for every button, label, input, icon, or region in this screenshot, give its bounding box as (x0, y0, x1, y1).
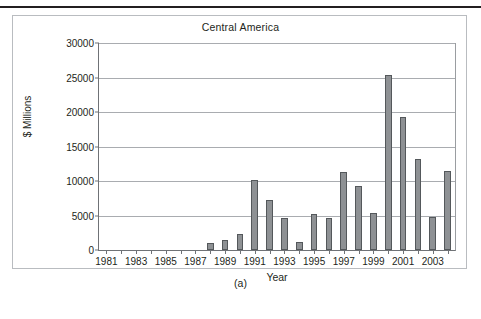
y-gridline (99, 43, 455, 44)
bar (340, 172, 347, 250)
x-tick-mark (255, 250, 256, 254)
y-tick-label: 0 (88, 245, 94, 256)
x-tick-mark (418, 250, 419, 254)
x-tick-mark (329, 250, 330, 254)
x-tick-label: 1993 (273, 256, 295, 267)
bar (385, 75, 392, 250)
x-tick-label: 1985 (155, 256, 177, 267)
figure-page: Central America $ Millions 0500010000150… (0, 0, 481, 319)
x-tick-mark (284, 250, 285, 254)
y-tick-mark (95, 215, 99, 216)
x-tick-mark (225, 250, 226, 254)
top-rule-divider (0, 6, 481, 8)
x-tick-mark (181, 250, 182, 254)
x-tick-mark (166, 250, 167, 254)
x-tick-label: 2003 (422, 256, 444, 267)
x-tick-label: 1989 (214, 256, 236, 267)
x-tick-mark (359, 250, 360, 254)
figure-frame: Central America $ Millions 0500010000150… (12, 15, 467, 269)
x-tick-mark (344, 250, 345, 254)
y-tick-mark (95, 43, 99, 44)
plot-area: 0500010000150002000025000300001981198319… (98, 43, 456, 251)
x-tick-label: 1987 (184, 256, 206, 267)
y-tick-label: 30000 (66, 38, 94, 49)
x-tick-mark (210, 250, 211, 254)
y-tick-mark (95, 250, 99, 251)
y-tick-label: 20000 (66, 107, 94, 118)
y-tick-label: 10000 (66, 176, 94, 187)
x-tick-mark (240, 250, 241, 254)
x-tick-label: 2001 (392, 256, 414, 267)
bar (296, 242, 303, 250)
y-tick-label: 5000 (72, 210, 94, 221)
bar (311, 214, 318, 250)
y-axis-title: $ Millions (22, 77, 33, 157)
x-tick-label: 1995 (303, 256, 325, 267)
x-tick-mark (448, 250, 449, 254)
chart-title: Central America (13, 21, 468, 33)
bar (444, 171, 451, 250)
bar (237, 234, 244, 250)
bar (222, 240, 229, 250)
figure-caption: (a) (0, 277, 481, 289)
bar (281, 218, 288, 250)
x-tick-mark (314, 250, 315, 254)
y-tick-mark (95, 146, 99, 147)
x-tick-mark (106, 250, 107, 254)
y-tick-mark (95, 77, 99, 78)
x-tick-label: 1997 (333, 256, 355, 267)
bar (370, 213, 377, 250)
x-tick-label: 1983 (125, 256, 147, 267)
x-tick-mark (121, 250, 122, 254)
y-tick-mark (95, 181, 99, 182)
x-tick-mark (403, 250, 404, 254)
y-gridline (99, 112, 455, 113)
bar (326, 218, 333, 250)
x-tick-mark (433, 250, 434, 254)
y-tick-label: 25000 (66, 72, 94, 83)
x-tick-label: 1981 (95, 256, 117, 267)
bar (355, 186, 362, 250)
x-tick-mark (373, 250, 374, 254)
bar (266, 200, 273, 250)
bar (251, 180, 258, 250)
x-tick-mark (151, 250, 152, 254)
x-tick-mark (136, 250, 137, 254)
x-tick-mark (270, 250, 271, 254)
x-tick-mark (388, 250, 389, 254)
x-tick-label: 1999 (362, 256, 384, 267)
bar (400, 117, 407, 251)
y-tick-label: 15000 (66, 141, 94, 152)
bar (415, 159, 422, 250)
y-tick-mark (95, 112, 99, 113)
bar (429, 217, 436, 250)
y-gridline (99, 78, 455, 79)
x-tick-mark (195, 250, 196, 254)
x-tick-label: 1991 (244, 256, 266, 267)
x-tick-mark (299, 250, 300, 254)
